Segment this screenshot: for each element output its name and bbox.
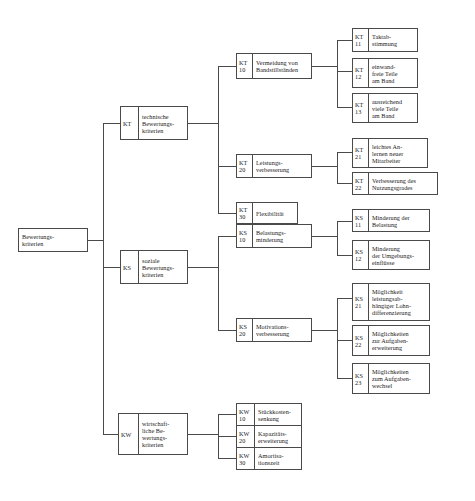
- node-ks20[interactable]: KS 20 Motivations- verbesserung: [236, 318, 312, 342]
- connector-ks-out: [188, 267, 219, 268]
- node-kt10-label: Vermeidung von Bandstillständen: [253, 54, 311, 78]
- connector-kt20-bus: [337, 152, 338, 184]
- node-ks22-label: Möglichkeiten zur Aufgaben- erweiterung: [369, 326, 429, 355]
- node-kt20[interactable]: KT 20 Leistungs- verbesserung: [236, 154, 312, 178]
- connector-ks20-bus: [337, 298, 338, 378]
- connector-ks20-to-ks23: [337, 378, 353, 379]
- connector-kt10-to-kt12: [337, 71, 353, 72]
- node-ks12[interactable]: KS 12 Minderung der Umgebungs- einflüsse: [352, 240, 430, 270]
- node-kt-code: KT: [121, 107, 139, 139]
- node-ks23-label: Möglichkeiten zum Aufgaben- wechsel: [369, 364, 429, 393]
- node-kw[interactable]: KW wirtschaft- liche Be- wertungs- krite…: [118, 413, 188, 455]
- node-ks10[interactable]: KS 10 Belastungs- minderung: [236, 224, 312, 248]
- connector-kw-out: [188, 434, 219, 435]
- node-ks12-code: KS 12: [353, 241, 369, 269]
- node-kt30[interactable]: KT 30 Flexibilität: [236, 202, 298, 224]
- connector-kt-bus: [218, 66, 219, 213]
- node-kt30-code: KT 30: [237, 203, 253, 223]
- node-ks22-code: KS 22: [353, 326, 369, 355]
- node-kt30-label: Flexibilität: [253, 203, 297, 223]
- node-kt13-code: KT 13: [353, 94, 369, 122]
- connector-ks10-to-ks11: [337, 221, 353, 222]
- connector-kt-to-kt30: [218, 213, 237, 214]
- node-kw10[interactable]: KW 10 Stückkosten- senkung: [236, 403, 302, 426]
- connector-trunk-to-ks: [103, 267, 121, 268]
- node-ks21[interactable]: KS 21 Möglichkeit leistungsab- hängiger …: [352, 283, 430, 321]
- node-ks10-label: Belastungs- minderung: [253, 225, 311, 247]
- node-kw20-label: Kapazitäts- erweiterung: [255, 426, 301, 447]
- node-kt10-code: KT 10: [237, 54, 253, 78]
- connector-kt10-bus: [337, 40, 338, 107]
- node-kt11-code: KT 11: [353, 29, 369, 51]
- node-ks20-code: KS 20: [237, 319, 253, 341]
- node-kw10-code: KW 10: [237, 404, 255, 425]
- node-kt11[interactable]: KT 11 Taktab- stimmung: [352, 28, 418, 52]
- node-kw30-code: KW 30: [237, 448, 255, 469]
- node-kt13-label: ausreichend viele Teile am Band: [369, 94, 417, 122]
- node-kt22-label: Verbesserung des Nutzungsgrades: [369, 173, 437, 194]
- connector-ks20-to-ks22: [337, 340, 353, 341]
- node-kw20[interactable]: KW 20 Kapazitäts- erweiterung: [236, 425, 302, 448]
- node-kt21-label: leichtes An- lernen neuer Mitarbeiter: [369, 139, 427, 167]
- node-ks23-code: KS 23: [353, 364, 369, 393]
- connector-ks10-to-ks12: [337, 255, 353, 256]
- connector-trunk-to-kt: [103, 123, 121, 124]
- connector-ks-bus: [218, 236, 219, 330]
- connector-kt10-to-kt13: [337, 107, 353, 108]
- node-kt12[interactable]: KT 12 einwand- freie Teile am Band: [352, 58, 418, 88]
- connector-kt20-out: [312, 166, 338, 167]
- connector-kt10-to-kt11: [337, 40, 353, 41]
- connector-kt10-out: [312, 66, 338, 67]
- node-kt10[interactable]: KT 10 Vermeidung von Bandstillständen: [236, 53, 312, 79]
- node-kw30[interactable]: KW 30 Amortisa- tionszeit: [236, 447, 302, 470]
- node-ks11-label: Minderung der Belastung: [369, 210, 429, 231]
- node-kw30-label: Amortisa- tionszeit: [255, 448, 301, 469]
- node-root[interactable]: Bewertungs- kriterien: [18, 228, 88, 252]
- connector-kw-to-kw30: [218, 458, 237, 459]
- criteria-tree-diagram: Bewertungs- kriterien KT technische Bewe…: [0, 0, 475, 501]
- connector-ks20-to-ks21: [337, 298, 353, 299]
- node-kw20-code: KW 20: [237, 426, 255, 447]
- connector-kt20-to-kt21: [337, 152, 353, 153]
- node-kt12-code: KT 12: [353, 59, 369, 87]
- node-kw-label: wirtschaft- liche Be- wertungs- kriterie…: [139, 414, 187, 454]
- connector-kw-to-kw10: [218, 414, 237, 415]
- node-kt[interactable]: KT technische Bewertungs- kriterien: [120, 106, 188, 140]
- node-kt12-label: einwand- freie Teile am Band: [369, 59, 417, 87]
- node-ks11[interactable]: KS 11 Minderung der Belastung: [352, 209, 430, 232]
- node-kt20-label: Leistungs- verbesserung: [253, 155, 311, 177]
- node-kt22-code: KT 22: [353, 173, 369, 194]
- node-ks10-code: KS 10: [237, 225, 253, 247]
- node-kt21[interactable]: KT 21 leichtes An- lernen neuer Mitarbei…: [352, 138, 428, 168]
- node-kt13[interactable]: KT 13 ausreichend viele Teile am Band: [352, 93, 418, 123]
- node-ks-code: KS: [121, 251, 139, 283]
- node-kt20-code: KT 20: [237, 155, 253, 177]
- node-ks-label: soziale Bewertungs- kriterien: [139, 251, 187, 283]
- node-ks23[interactable]: KS 23 Möglichkeiten zum Aufgaben- wechse…: [352, 363, 430, 394]
- node-ks20-label: Motivations- verbesserung: [253, 319, 311, 341]
- node-kt22[interactable]: KT 22 Verbesserung des Nutzungsgrades: [352, 172, 438, 195]
- connector-kt-out: [188, 123, 219, 124]
- node-ks11-code: KS 11: [353, 210, 369, 231]
- node-kt11-label: Taktab- stimmung: [369, 29, 417, 51]
- connector-trunk-main: [103, 123, 104, 434]
- connector-kt-to-kt20: [218, 166, 237, 167]
- connector-kt-to-kt10: [218, 66, 237, 67]
- node-ks21-code: KS 21: [353, 284, 369, 320]
- connector-ks-to-ks10: [218, 236, 237, 237]
- node-ks21-label: Möglichkeit leistungsab- hängiger Lohn- …: [369, 284, 429, 320]
- connector-root-out: [88, 240, 104, 241]
- connector-kw-to-kw20: [218, 436, 237, 437]
- connector-ks20-out: [312, 330, 338, 331]
- connector-ks10-bus: [337, 221, 338, 255]
- node-kw-code: KW: [119, 414, 139, 454]
- connector-ks10-out: [312, 236, 338, 237]
- node-ks[interactable]: KS soziale Bewertungs- kriterien: [120, 250, 188, 284]
- node-kt-label: technische Bewertungs- kriterien: [139, 107, 187, 139]
- node-ks22[interactable]: KS 22 Möglichkeiten zur Aufgaben- erweit…: [352, 325, 430, 356]
- node-root-label: Bewertungs- kriterien: [19, 229, 87, 251]
- connector-trunk-to-kw: [103, 434, 119, 435]
- connector-kt20-to-kt22: [337, 183, 353, 184]
- node-kw10-label: Stückkosten- senkung: [255, 404, 301, 425]
- node-ks12-label: Minderung der Umgebungs- einflüsse: [369, 241, 429, 269]
